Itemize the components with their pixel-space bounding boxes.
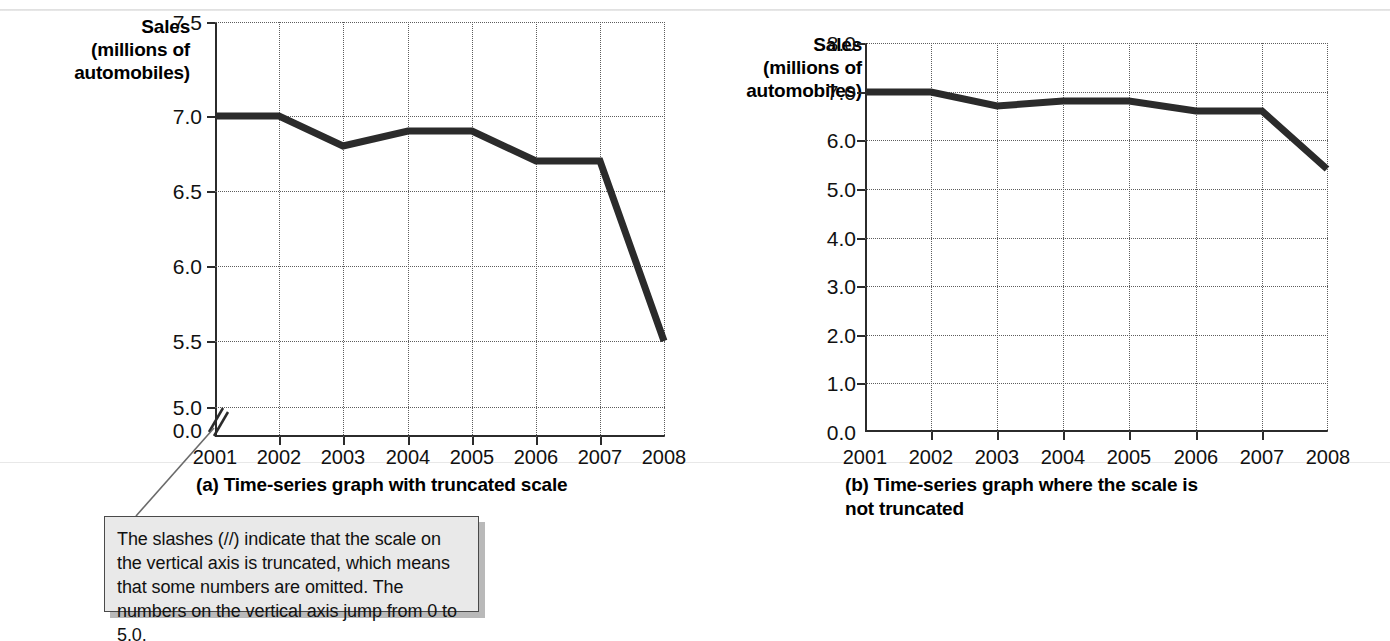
- x-tick-mark-2003-b: [997, 432, 999, 440]
- y-tick-label-7.0: 7.0: [130, 106, 202, 127]
- x-tick-label-2008-b: 2008: [1295, 447, 1361, 467]
- x-tick-label-2004-b: 2004: [1030, 447, 1096, 467]
- x-tick-label-2008: 2008: [631, 447, 697, 467]
- y-tick-mark-7.0: [207, 116, 215, 118]
- x-tick-label-2001-b: 2001: [832, 447, 898, 467]
- y-tick-label-6.0: 6.0: [130, 256, 202, 277]
- x-tick-label-2006: 2006: [503, 447, 569, 467]
- plot-area-a: [215, 22, 665, 437]
- x-tick-label-2003: 2003: [310, 447, 376, 467]
- y-tick-mark-1.0-b: [857, 383, 865, 385]
- y-tick-label-6.0-b: 6.0: [788, 130, 856, 151]
- x-tick-mark-2002-b: [931, 432, 933, 440]
- x-tick-label-2005: 2005: [439, 447, 505, 467]
- y-tick-label-2.0-b: 2.0: [788, 325, 856, 346]
- y-axis-title-line-2: (millions of: [18, 38, 190, 61]
- y-tick-mark-8.0-b: [857, 43, 865, 45]
- y-tick-label-7.5: 7.5: [130, 12, 202, 33]
- x-tick-label-2007: 2007: [567, 447, 633, 467]
- series-line-b: [865, 43, 1328, 432]
- x-tick-mark-2005: [472, 437, 474, 445]
- y-tick-label-8.0-b: 8.0: [788, 33, 856, 54]
- series-line-a: [215, 22, 665, 437]
- y-tick-mark-7.0-b: [857, 92, 865, 94]
- x-tick-mark-2004: [408, 437, 410, 445]
- chart-panel-b: Sales (millions of automobiles): [700, 0, 1390, 641]
- x-tick-mark-2005-b: [1129, 432, 1131, 440]
- y-tick-mark-6.5: [207, 191, 215, 193]
- caption-b-line-2: not truncated: [845, 497, 1315, 521]
- y-tick-label-7.0-b: 7.0: [788, 82, 856, 103]
- y-tick-label-4.0-b: 4.0: [788, 228, 856, 249]
- x-tick-mark-2006-b: [1196, 432, 1198, 440]
- y-tick-mark-4.0-b: [857, 238, 865, 240]
- x-tick-label-2003-b: 2003: [964, 447, 1030, 467]
- y-tick-mark-3.0-b: [857, 286, 865, 288]
- y-tick-label-5.0-b: 5.0: [788, 179, 856, 200]
- x-tick-label-2002-b: 2002: [898, 447, 964, 467]
- x-tick-label-2005-b: 2005: [1096, 447, 1162, 467]
- x-tick-label-2004: 2004: [375, 447, 441, 467]
- y-tick-label-1.0-b: 1.0: [788, 373, 856, 394]
- y-tick-mark-6.0: [207, 266, 215, 268]
- plot-area-b: [865, 43, 1328, 432]
- y-tick-mark-5.5: [207, 341, 215, 343]
- x-tick-mark-2007-b: [1262, 432, 1264, 440]
- y-tick-label-0.0-b: 0.0: [788, 422, 856, 443]
- y-tick-label-5.5: 5.5: [130, 331, 202, 352]
- y-tick-label-3.0-b: 3.0: [788, 276, 856, 297]
- caption-b-line-1: (b) Time-series graph where the scale is: [845, 473, 1315, 497]
- y-axis-title-b-line-2: (millions of: [690, 56, 862, 79]
- y-tick-mark-7.5: [207, 22, 215, 24]
- x-tick-label-2007-b: 2007: [1229, 447, 1295, 467]
- x-tick-mark-2003: [343, 437, 345, 445]
- y-tick-label-6.5: 6.5: [130, 181, 202, 202]
- callout-text: The slashes (//) indicate that the scale…: [117, 527, 466, 641]
- x-tick-label-2006-b: 2006: [1163, 447, 1229, 467]
- callout-leader-line: [126, 424, 236, 524]
- x-tick-mark-2006: [536, 437, 538, 445]
- chart-panel-a: Sales (millions of automobiles): [0, 0, 700, 641]
- x-tick-mark-2004-b: [1063, 432, 1065, 440]
- x-tick-mark-2002: [279, 437, 281, 445]
- y-tick-mark-6.0-b: [857, 140, 865, 142]
- y-tick-label-5.0: 5.0: [130, 397, 202, 418]
- y-tick-mark-2.0-b: [857, 335, 865, 337]
- callout-box: The slashes (//) indicate that the scale…: [104, 516, 479, 612]
- y-axis-title-line-3: automobiles): [18, 61, 190, 84]
- caption-a: (a) Time-series graph with truncated sca…: [196, 473, 567, 497]
- caption-b: (b) Time-series graph where the scale is…: [845, 473, 1315, 521]
- y-tick-mark-5.0-b: [857, 189, 865, 191]
- x-tick-label-2002: 2002: [246, 447, 312, 467]
- x-tick-mark-2007: [600, 437, 602, 445]
